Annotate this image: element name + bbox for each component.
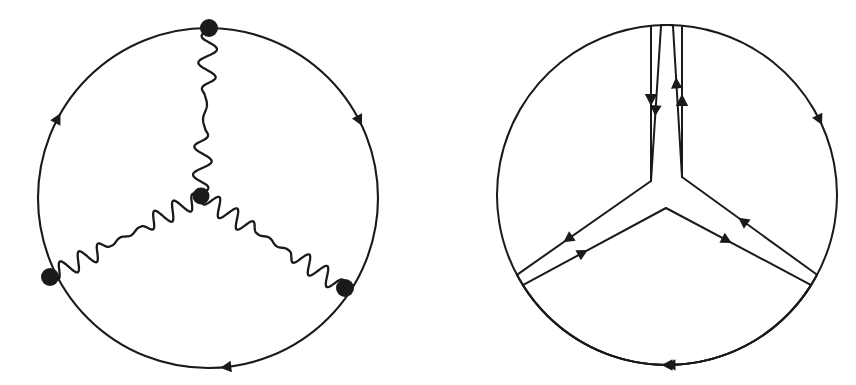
arrow-upper-left-spoke-in-out — [563, 231, 575, 242]
arrow-upper-right-spoke-in-out — [671, 77, 682, 88]
figure-root — [0, 0, 856, 385]
photon-top — [193, 28, 217, 196]
arrow-bottom-arc — [662, 359, 673, 370]
vertex-lower-left — [41, 268, 59, 286]
photon-lower-left — [50, 194, 201, 280]
panel-right-sector-flow — [428, 0, 856, 385]
vertex-lower-right — [336, 279, 354, 297]
photon-lines-group — [50, 28, 345, 288]
panel-left-feynman-loop — [0, 0, 428, 385]
photon-lower-right — [201, 196, 345, 288]
top-gap-stems-group — [645, 26, 688, 181]
sector-bottom-outline — [523, 208, 811, 365]
sector-flow-group — [497, 25, 837, 371]
sector-bottom — [523, 208, 811, 371]
center-vertex — [193, 188, 210, 205]
vertex-top — [200, 19, 218, 37]
right-diagram-svg — [428, 0, 856, 385]
arrow-upper-right-spoke-in — [738, 218, 750, 229]
left-diagram-svg — [0, 0, 428, 385]
